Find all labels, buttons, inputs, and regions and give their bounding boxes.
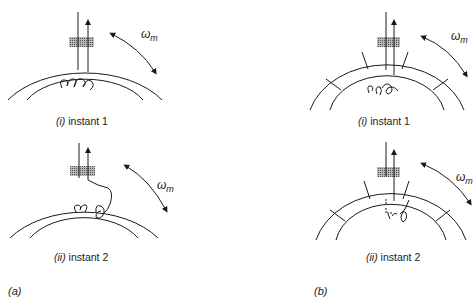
slot-divider — [403, 181, 409, 199]
brush-block — [70, 166, 95, 176]
brush-block — [377, 37, 400, 47]
brush-block — [69, 37, 94, 47]
panel-b-instant-1 — [310, 12, 466, 110]
outer-arc — [10, 212, 158, 238]
panel-b-instant-2 — [316, 142, 470, 240]
omega-label-a1: ωm — [141, 27, 158, 43]
panel-a-instant-2 — [10, 143, 166, 238]
outer-arc — [310, 65, 464, 110]
caption-a-instant-2: (ii) instant 2 — [54, 251, 108, 263]
panel-label-a: (a) — [8, 285, 21, 297]
omega-label-b2: ωm — [456, 170, 473, 186]
omega-label-b1: ωm — [451, 29, 468, 45]
panel-label-b: (b) — [314, 285, 327, 297]
inner-arc — [336, 204, 446, 240]
end-winding-coil — [74, 205, 104, 218]
displaced-conductor — [88, 180, 112, 213]
brush-block — [377, 167, 400, 177]
caption-b-instant-2: (ii) instant 2 — [366, 251, 420, 263]
end-winding-coil — [368, 84, 398, 95]
caption-b-instant-1: (i) instant 1 — [358, 115, 410, 127]
caption-a-instant-1: (i) instant 1 — [56, 115, 108, 127]
omega-label-a2: ωm — [157, 178, 174, 194]
conductor-stub — [386, 199, 392, 213]
end-winding-coil — [388, 200, 409, 222]
end-winding-coil — [61, 79, 94, 90]
slot-divider — [436, 210, 450, 221]
inner-arc — [30, 218, 138, 238]
panel-a-instant-1 — [8, 12, 162, 100]
slot-divider — [362, 52, 368, 69]
